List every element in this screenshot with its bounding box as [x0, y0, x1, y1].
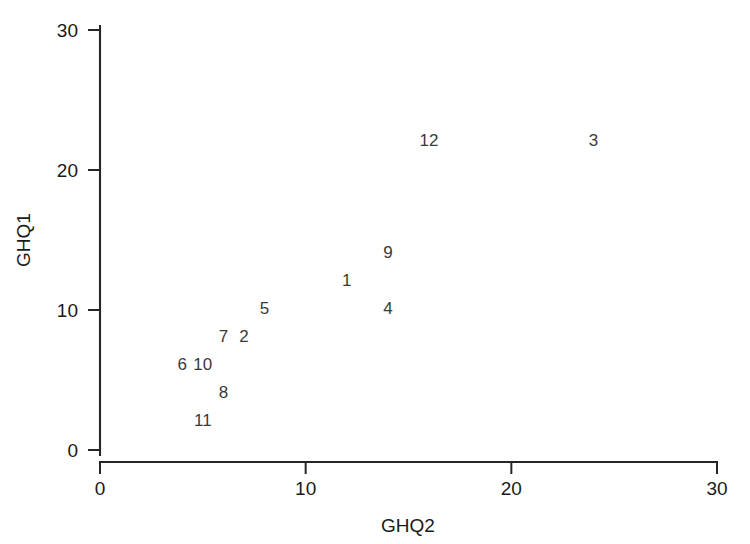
data-point-label: 12: [420, 131, 439, 150]
data-point-label: 8: [219, 383, 228, 402]
data-point-label: 11: [194, 411, 212, 430]
x-axis-tick-label: 10: [295, 478, 316, 499]
y-axis-tick-label: 20: [57, 160, 78, 181]
x-axis: 0102030: [95, 462, 728, 499]
x-axis-tick-label: 30: [706, 478, 727, 499]
y-axis-tick-labels: 0102030: [57, 20, 78, 461]
data-point-label: 1: [342, 271, 351, 290]
y-axis-title: GHQ1: [13, 213, 34, 267]
y-axis-ticks: [88, 30, 100, 450]
data-point-label: 3: [589, 131, 598, 150]
y-axis-tick-label: 0: [67, 440, 78, 461]
y-axis-tick-label: 10: [57, 300, 78, 321]
data-point-label: 4: [383, 299, 392, 318]
data-point-label: 9: [383, 243, 392, 262]
data-point-label: 2: [239, 327, 248, 346]
x-axis-tick-label: 0: [95, 478, 106, 499]
data-point-label: 10: [193, 355, 212, 374]
data-point-label: 5: [260, 299, 269, 318]
y-axis-tick-label: 30: [57, 20, 78, 41]
data-point-layer: 123456789101112: [178, 131, 599, 430]
x-axis-ticks: [100, 462, 717, 474]
x-axis-tick-labels: 0102030: [95, 478, 728, 499]
x-axis-title: GHQ2: [381, 515, 435, 536]
scatter-plot-figure: 0102030 0102030 GHQ1 GHQ2 12345678910111…: [0, 0, 750, 544]
data-point-label: 6: [178, 355, 187, 374]
x-axis-tick-label: 20: [501, 478, 522, 499]
data-point-label: 7: [219, 327, 228, 346]
y-axis: 0102030: [57, 20, 100, 461]
plot-canvas: 0102030 0102030 GHQ1 GHQ2 12345678910111…: [0, 0, 750, 544]
